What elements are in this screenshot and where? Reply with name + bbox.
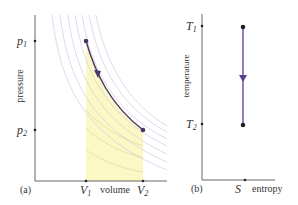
- svg-text:V1: V1: [80, 183, 91, 198]
- arrow-icon: [239, 75, 247, 82]
- entropy-label: entropy: [252, 183, 283, 194]
- panel-a-tag: (a): [20, 184, 31, 196]
- svg-text:T2: T2: [186, 117, 197, 132]
- svg-text:p2: p2: [16, 123, 27, 138]
- thermo-diagram: p1 p2 pressure (a) V1 volume V2 T1 T2 te…: [0, 0, 298, 205]
- panel-b-tag: (b): [191, 183, 203, 195]
- panel-a-pv: p1 p2 pressure (a) V1 volume V2: [14, 15, 167, 198]
- state-point-2: [141, 128, 146, 133]
- state-point-1: [241, 25, 246, 30]
- volume-label: volume: [100, 184, 131, 195]
- state-point-2: [241, 123, 246, 128]
- temperature-label: temperature: [181, 55, 191, 98]
- svg-text:T1: T1: [186, 19, 197, 34]
- svg-text:V2: V2: [137, 183, 148, 198]
- state-point-1: [84, 39, 89, 44]
- svg-text:S: S: [235, 182, 241, 196]
- panel-b-ts: T1 T2 temperature (b) S entropy: [181, 14, 283, 196]
- svg-text:p1: p1: [16, 34, 27, 49]
- pressure-label: pressure: [14, 69, 25, 103]
